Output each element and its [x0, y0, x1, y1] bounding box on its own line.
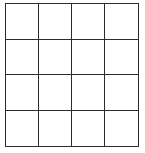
grid-cell-r2-c2: [39, 40, 72, 76]
grid-cell-r4-c2: [39, 111, 72, 147]
grid-cell-r2-c4: [105, 40, 138, 76]
grid-cell-r3-c4: [105, 75, 138, 111]
grid-cell-r4-c4: [105, 111, 138, 147]
grid-cell-r2-c1: [6, 40, 39, 76]
grid-cell-r4-c3: [72, 111, 105, 147]
grid-cell-r3-c2: [39, 75, 72, 111]
grid-cell-r1-c1: [6, 4, 39, 40]
grid-cell-r1-c2: [39, 4, 72, 40]
grid-cell-r3-c3: [72, 75, 105, 111]
grid-cell-r3-c1: [6, 75, 39, 111]
grid-4x4: [5, 3, 139, 147]
grid-cell-r2-c3: [72, 40, 105, 76]
grid-cell-r4-c1: [6, 111, 39, 147]
grid-cell-r1-c3: [72, 4, 105, 40]
grid-cell-r1-c4: [105, 4, 138, 40]
